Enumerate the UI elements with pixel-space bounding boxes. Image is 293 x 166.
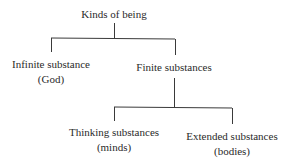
node-label: Extended substances bbox=[177, 129, 287, 144]
node-label: Thinking substances bbox=[59, 125, 169, 140]
node-finite-substances: Finite substances bbox=[124, 60, 224, 75]
node-extended-substances: Extended substances (bodies) bbox=[177, 129, 287, 159]
node-kinds-of-being: Kinds of being bbox=[64, 7, 164, 22]
node-infinite-substance: Infinite substance (God) bbox=[1, 57, 101, 87]
node-thinking-substances: Thinking substances (minds) bbox=[59, 125, 169, 155]
node-label: Kinds of being bbox=[64, 7, 164, 22]
node-sublabel: (minds) bbox=[59, 140, 169, 155]
node-sublabel: (bodies) bbox=[177, 144, 287, 159]
node-label: Finite substances bbox=[124, 60, 224, 75]
node-label: Infinite substance bbox=[1, 57, 101, 72]
node-sublabel: (God) bbox=[1, 72, 101, 87]
